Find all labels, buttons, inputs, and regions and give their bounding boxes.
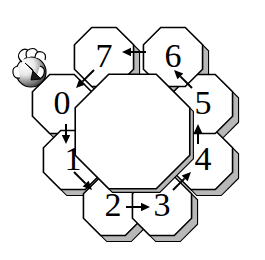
cell-label-1: 1	[65, 140, 82, 177]
start-token-icon[interactable]	[13, 49, 46, 88]
cell-label-4: 4	[195, 140, 212, 177]
cell-label-6: 6	[165, 37, 182, 74]
cell-label-5: 5	[195, 84, 212, 121]
cell-label-0: 0	[54, 84, 71, 121]
cell-label-2: 2	[105, 186, 122, 223]
octagon-ring-canvas: 0 1 2 3 4 5 6 7	[0, 0, 265, 260]
cell-label-7: 7	[96, 37, 113, 74]
cell-label-3: 3	[154, 186, 171, 223]
octagon-ring-diagram: 0 1 2 3 4 5 6 7	[0, 0, 265, 260]
